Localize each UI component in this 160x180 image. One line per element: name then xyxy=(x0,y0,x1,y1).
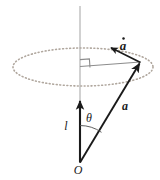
label-theta: θ xyxy=(86,111,92,125)
label-a: a xyxy=(122,99,128,113)
label-a-dot-group: a xyxy=(120,37,127,53)
label-l: l xyxy=(64,119,68,133)
radius-line xyxy=(80,62,141,67)
vector-diagram: a a l θ O xyxy=(0,0,160,180)
figure-container: a a l θ O xyxy=(0,0,160,180)
label-origin: O xyxy=(74,163,83,177)
a-dot-overdot-icon xyxy=(122,37,125,40)
precession-circle xyxy=(13,48,153,86)
label-a-dot: a xyxy=(120,38,127,53)
